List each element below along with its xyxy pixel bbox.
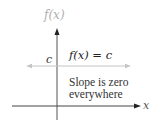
constant-function-diagram: f(x) c f(x) = c Slope is zero everywhere… (0, 0, 158, 125)
graph-svg (0, 0, 158, 125)
annotation-line-1: Slope is zero (69, 76, 128, 88)
y-axis-arrow-icon (55, 28, 60, 35)
slope-annotation: Slope is zero everywhere (69, 76, 128, 100)
function-label: f(x) = c (69, 50, 112, 62)
right-arrow-icon (125, 64, 131, 68)
constant-c-label: c (46, 54, 52, 65)
annotation-line-2: everywhere (69, 88, 128, 100)
y-axis-label: f(x) (44, 9, 65, 21)
constant-function-line (26, 64, 131, 68)
x-axis-label: x (143, 100, 149, 111)
x-axis (12, 104, 141, 109)
x-axis-arrow-icon (134, 104, 141, 109)
left-arrow-icon (26, 64, 32, 68)
